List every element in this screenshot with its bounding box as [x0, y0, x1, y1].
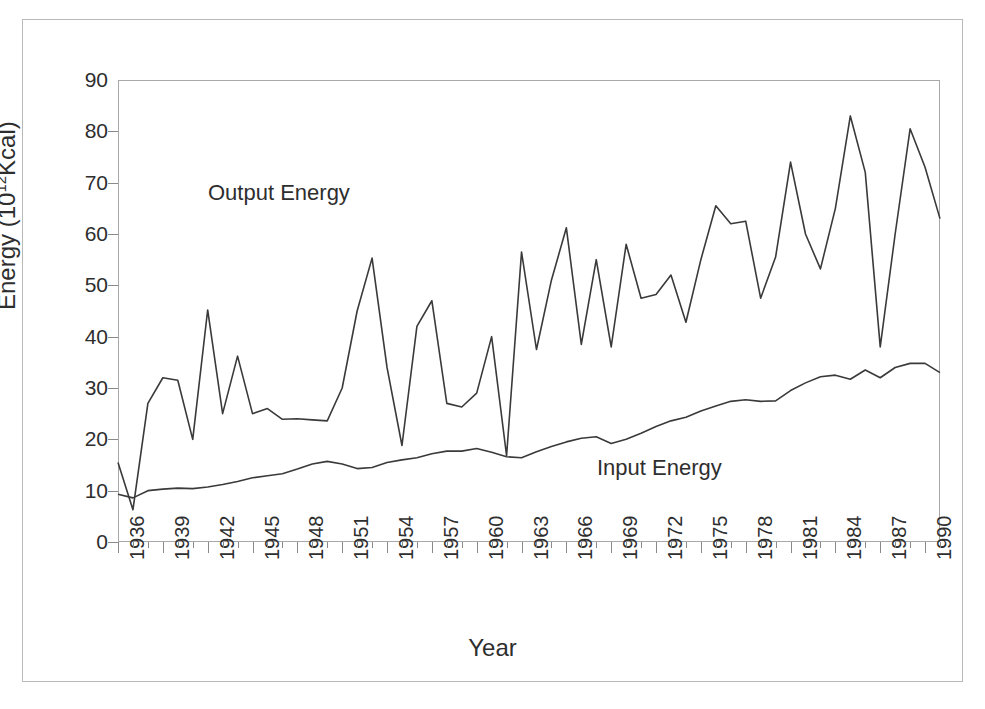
y-axis-title-exponent: 12: [0, 176, 9, 193]
x-axis-tick-1957: 1957: [440, 516, 463, 561]
x-axis-tick-1945: 1945: [261, 516, 284, 561]
x-tick-mark: [372, 542, 373, 548]
x-tick-mark: [118, 542, 119, 553]
x-tick-mark: [208, 542, 209, 553]
x-tick-mark: [402, 542, 403, 548]
x-tick-mark: [148, 542, 149, 548]
x-tick-mark: [940, 542, 941, 548]
x-tick-mark: [805, 542, 806, 548]
x-axis-tick-1960: 1960: [485, 516, 508, 561]
x-tick-mark: [895, 542, 896, 548]
y-axis-tick-labels: 9080706050403020100: [0, 0, 108, 709]
x-tick-mark: [492, 542, 493, 548]
x-tick-mark: [282, 542, 283, 548]
x-tick-mark: [925, 542, 926, 553]
x-axis-tick-1972: 1972: [664, 516, 687, 561]
x-tick-mark: [223, 542, 224, 548]
line-output-energy: [118, 116, 940, 510]
y-axis-tick-30: 30: [85, 376, 108, 400]
x-axis-tick-1939: 1939: [171, 516, 194, 561]
x-tick-mark: [387, 542, 388, 553]
x-axis-tick-1975: 1975: [709, 516, 732, 561]
data-lines: [118, 80, 940, 542]
x-axis-tick-1948: 1948: [305, 516, 328, 561]
x-tick-mark: [193, 542, 194, 548]
x-axis-tick-1951: 1951: [350, 516, 373, 561]
y-axis-tick-80: 80: [85, 119, 108, 143]
x-axis-tick-1981: 1981: [799, 516, 822, 561]
x-tick-mark: [716, 542, 717, 548]
x-tick-mark: [432, 542, 433, 553]
x-tick-mark: [238, 542, 239, 548]
x-tick-mark: [267, 542, 268, 548]
y-axis-tick-0: 0: [96, 530, 108, 554]
x-axis-tick-1978: 1978: [754, 516, 777, 561]
x-axis-tick-1954: 1954: [395, 516, 418, 561]
x-tick-mark: [596, 542, 597, 548]
x-tick-mark: [835, 542, 836, 553]
x-axis-tick-1990: 1990: [933, 516, 956, 561]
x-tick-mark: [820, 542, 821, 548]
x-tick-mark: [671, 542, 672, 548]
y-axis-tick-50: 50: [85, 273, 108, 297]
y-axis-title-tail: Kcal): [0, 121, 20, 176]
y-axis-tick-60: 60: [85, 222, 108, 246]
x-tick-mark: [462, 542, 463, 548]
x-tick-mark: [761, 542, 762, 548]
x-tick-mark: [626, 542, 627, 548]
x-tick-mark: [611, 542, 612, 553]
x-tick-mark: [357, 542, 358, 548]
x-tick-mark: [791, 542, 792, 553]
y-axis-tick-90: 90: [85, 68, 108, 92]
x-tick-mark: [641, 542, 642, 548]
annotation-input-energy: Input Energy: [597, 455, 722, 481]
y-axis-tick-10: 10: [85, 479, 108, 503]
x-tick-mark: [910, 542, 911, 548]
x-tick-mark: [656, 542, 657, 553]
x-tick-mark: [417, 542, 418, 548]
x-tick-mark: [507, 542, 508, 548]
x-tick-mark: [850, 542, 851, 548]
y-axis-tick-70: 70: [85, 171, 108, 195]
x-tick-mark: [327, 542, 328, 548]
x-tick-mark: [701, 542, 702, 553]
chart-figure: 9080706050403020100 Energy (1012Kcal) 19…: [0, 0, 985, 709]
x-tick-mark: [686, 542, 687, 548]
x-axis-tick-1987: 1987: [888, 516, 911, 561]
x-tick-mark: [536, 542, 537, 548]
x-tick-mark: [566, 542, 567, 553]
x-tick-mark: [477, 542, 478, 553]
x-axis-tick-1969: 1969: [619, 516, 642, 561]
x-tick-mark: [178, 542, 179, 548]
x-tick-mark: [312, 542, 313, 548]
x-tick-mark: [522, 542, 523, 553]
x-tick-mark: [746, 542, 747, 553]
x-axis-tick-1936: 1936: [126, 516, 149, 561]
x-axis-tick-1984: 1984: [843, 516, 866, 561]
y-axis-tick-40: 40: [85, 325, 108, 349]
x-axis-tick-1966: 1966: [574, 516, 597, 561]
x-tick-mark: [581, 542, 582, 548]
x-tick-mark: [880, 542, 881, 553]
x-axis-tick-1942: 1942: [216, 516, 239, 561]
x-tick-mark: [865, 542, 866, 548]
x-tick-mark: [133, 542, 134, 548]
x-axis-tick-1963: 1963: [530, 516, 553, 561]
x-tick-mark: [342, 542, 343, 553]
x-tick-mark: [297, 542, 298, 553]
x-tick-mark: [163, 542, 164, 553]
x-tick-mark: [253, 542, 254, 553]
x-tick-mark: [551, 542, 552, 548]
y-axis-title-base: Energy (10: [0, 193, 20, 310]
line-input-energy: [118, 363, 940, 497]
y-axis-title: Energy (1012Kcal): [0, 121, 21, 310]
annotation-output-energy: Output Energy: [208, 180, 350, 206]
x-tick-mark: [447, 542, 448, 548]
y-axis-tick-20: 20: [85, 427, 108, 451]
x-tick-mark: [731, 542, 732, 548]
x-axis-title: Year: [0, 634, 985, 662]
x-tick-mark: [776, 542, 777, 548]
